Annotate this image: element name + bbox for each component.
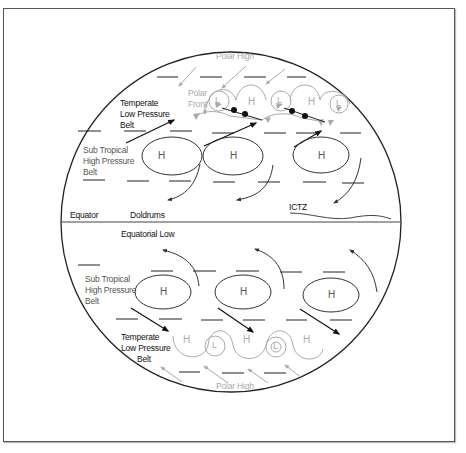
front-high-2: H bbox=[308, 96, 315, 107]
front-low-2: L bbox=[277, 95, 282, 105]
north-subtropical-label-1: Sub Tropical bbox=[83, 145, 128, 156]
front-low-1: L bbox=[215, 95, 220, 105]
south-temperate-label-1: Temperate bbox=[121, 332, 159, 343]
north-polar-high-label: Polar High bbox=[216, 51, 254, 62]
doldrums-label: Doldrums bbox=[130, 210, 165, 221]
south-high-1: H bbox=[160, 286, 167, 297]
north-trade-winds bbox=[168, 158, 361, 203]
north-high-1: H bbox=[158, 150, 165, 161]
polar-front-label-2: Front bbox=[188, 99, 207, 110]
wave-high-2: H bbox=[243, 334, 250, 345]
south-high-3: H bbox=[328, 289, 335, 300]
north-temperate-label-3: Belt bbox=[120, 120, 134, 131]
north-polar-easterlies bbox=[179, 66, 285, 88]
polar-front-label-1: Polar bbox=[188, 88, 207, 99]
south-temperate-label-2: Low Pressure bbox=[121, 343, 171, 354]
front-low-3: L bbox=[336, 98, 341, 108]
south-polar-high-label: Polar High bbox=[216, 381, 254, 392]
front-high-1: H bbox=[248, 96, 255, 107]
north-subtropical-isobars bbox=[83, 180, 364, 183]
south-subtropical-label-2: High Pressure bbox=[85, 285, 136, 296]
wave-high-3: H bbox=[303, 334, 310, 345]
north-temperate-label-1: Temperate bbox=[120, 98, 158, 109]
ictz-wave bbox=[290, 213, 391, 219]
south-polar-isobars bbox=[179, 372, 286, 373]
cold-front-triangles bbox=[193, 102, 342, 126]
wave-high-1: H bbox=[183, 334, 190, 345]
south-temperate-label-3: Belt bbox=[137, 354, 151, 365]
equator-label: Equator bbox=[70, 210, 98, 221]
south-westerlies bbox=[131, 308, 339, 334]
north-subtropical-label-2: High Pressure bbox=[83, 156, 134, 167]
south-subtropical-label-1: Sub Tropical bbox=[85, 274, 130, 285]
south-high-2: H bbox=[240, 286, 247, 297]
south-subtropical-upper-isobars bbox=[78, 265, 345, 272]
north-temperate-label-2: Low Pressure bbox=[120, 109, 170, 120]
south-subtropical-label-3: Belt bbox=[85, 296, 99, 307]
wave-low-2: L bbox=[273, 341, 278, 351]
north-high-2: H bbox=[230, 150, 237, 161]
equatorial-low-label: Equatorial Low bbox=[121, 229, 174, 240]
wave-low-1: L bbox=[212, 340, 217, 350]
north-high-3: H bbox=[318, 150, 325, 161]
north-subtropical-label-3: Belt bbox=[83, 167, 97, 178]
ictz-label: ICTZ bbox=[289, 202, 307, 213]
